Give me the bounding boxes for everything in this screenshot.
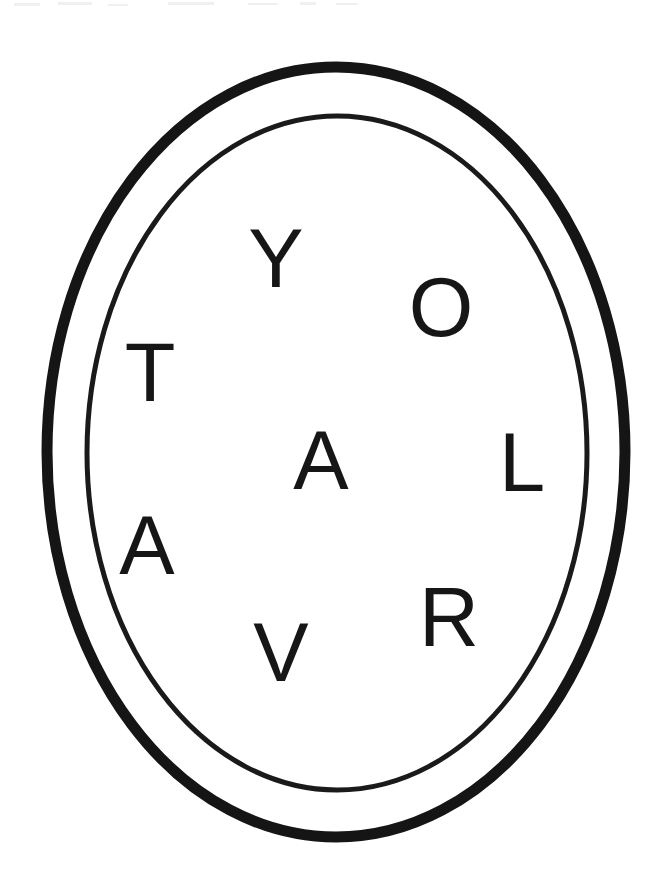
letter-y: Y xyxy=(248,217,303,300)
letter-a-middle: A xyxy=(293,419,348,502)
letter-a-lower: A xyxy=(119,504,174,587)
emblem-canvas: YOTALARV xyxy=(0,0,671,884)
letter-r: R xyxy=(419,576,479,659)
letter-t: T xyxy=(125,331,176,414)
letter-l: L xyxy=(499,421,545,504)
letter-o: O xyxy=(409,266,474,349)
letter-v: V xyxy=(253,611,308,694)
